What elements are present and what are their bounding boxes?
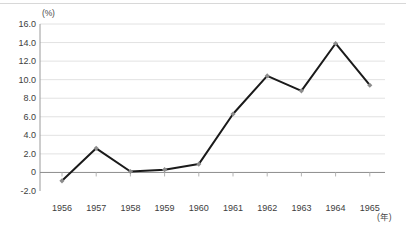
x-axis-ticks	[62, 172, 370, 176]
x-axis-unit-label: (年)	[377, 210, 392, 222]
data-series-line	[62, 43, 370, 180]
data-line	[62, 43, 370, 180]
plot-area	[0, 0, 406, 228]
line-chart: (%) 16.014.012.010.08.06.04.02.00-2.0 19…	[0, 0, 406, 228]
data-markers	[59, 41, 372, 184]
data-point-marker	[162, 167, 167, 172]
